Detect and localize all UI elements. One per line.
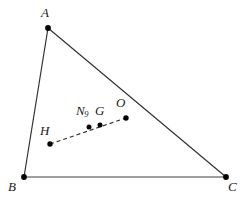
point-n9 <box>87 125 92 130</box>
point-g <box>98 123 103 128</box>
euler-line <box>50 118 126 144</box>
label-n9-letter: N <box>76 103 84 118</box>
side-ab <box>24 28 48 177</box>
label-b: B <box>8 180 16 193</box>
point-b <box>21 174 27 180</box>
point-a <box>45 25 51 31</box>
euler-line-diagram: A B C H N9 G O <box>0 0 247 201</box>
label-c: C <box>228 180 237 193</box>
label-o: O <box>116 96 125 109</box>
side-ac <box>48 28 226 177</box>
point-h <box>47 141 52 146</box>
label-n9: N9 <box>76 104 88 119</box>
label-h: H <box>40 124 49 137</box>
label-n9-subscript: 9 <box>84 109 88 119</box>
point-o <box>123 115 128 120</box>
label-g: G <box>95 104 104 117</box>
label-a: A <box>41 6 49 19</box>
